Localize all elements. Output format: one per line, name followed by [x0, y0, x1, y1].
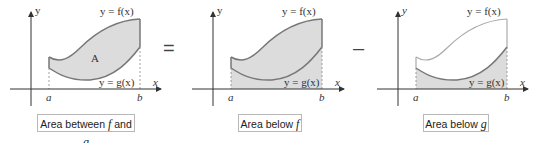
x-axis-label: x — [520, 77, 525, 88]
minus-sign: – — [353, 37, 364, 60]
b-label: b — [319, 92, 325, 103]
x-axis-label: x — [335, 77, 340, 88]
y-axis-label: y — [35, 5, 41, 16]
region-label: A — [91, 53, 99, 64]
f-label: y = f(x) — [282, 6, 316, 17]
x-axis-label: x — [153, 77, 158, 88]
caption-area-below-f: Area below f — [238, 114, 302, 132]
a-label: a — [228, 92, 234, 103]
equals-sign: = — [163, 37, 175, 60]
caption-area-below-g: Area below g — [423, 114, 489, 132]
f-label: y = f(x) — [467, 6, 501, 17]
region-between-fill — [49, 19, 140, 80]
g-label: y = g(x) — [99, 77, 135, 88]
a-label: a — [413, 92, 419, 103]
g-label: y = g(x) — [469, 77, 505, 88]
y-axis-label: y — [217, 5, 223, 16]
caption-area-between: Area between f and g — [37, 114, 135, 132]
y-axis-label: y — [402, 5, 407, 16]
b-label: b — [504, 92, 510, 103]
b-label: b — [137, 92, 143, 103]
g-label: y = g(x) — [284, 77, 320, 88]
f-label: y = f(x) — [100, 6, 134, 17]
a-label: a — [46, 92, 52, 103]
curve-f — [416, 19, 507, 60]
